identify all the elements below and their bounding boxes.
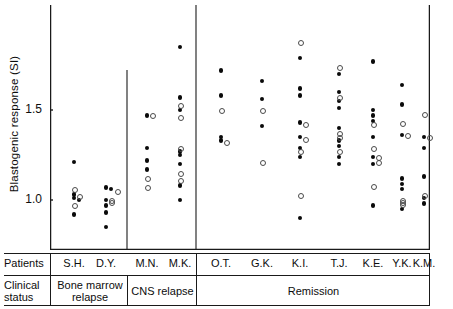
data-point-open	[422, 193, 428, 199]
data-point-open	[400, 121, 406, 127]
data-point-filled	[371, 113, 376, 118]
data-point-filled	[145, 167, 150, 172]
data-point-filled	[104, 203, 109, 208]
figure-root: Blastogenic response (SI) 1.51.0 Patient…	[0, 0, 453, 309]
data-point-filled	[422, 201, 427, 206]
data-point-open	[427, 135, 433, 141]
data-point-filled	[400, 176, 405, 181]
data-point-open	[298, 193, 304, 199]
row-label-patients: Patients	[4, 257, 48, 269]
data-point-filled	[298, 120, 303, 125]
data-point-filled	[371, 59, 376, 64]
data-point-open	[298, 40, 304, 46]
group-label-bone-marrow-relapse: Bone marrowrelapse	[52, 279, 128, 304]
data-point-filled	[104, 185, 109, 190]
data-point-filled	[422, 174, 427, 179]
data-point-open	[371, 184, 377, 190]
data-point-open	[371, 146, 377, 152]
row-label-clinical-status-line1: Clinical	[4, 279, 48, 291]
y-tick-label-1-0: 1.0	[25, 192, 42, 206]
patient-label-ot: O.T.	[199, 257, 243, 269]
patient-label-mk: M.K.	[158, 257, 202, 269]
patient-label-ki: K.I.	[278, 257, 322, 269]
label-table: Patients Clinical status S.H.D.Y.M.N.M.K…	[0, 253, 453, 309]
data-point-filled	[72, 212, 77, 217]
data-point-filled	[298, 93, 303, 98]
data-point-filled	[298, 86, 303, 91]
group-label-line2: relapse	[72, 291, 108, 303]
y-axis-title: Blastogenic response (SI)	[8, 24, 20, 224]
data-point-open	[400, 202, 406, 208]
y-tick-label-1-5: 1.5	[25, 102, 42, 116]
data-point-open	[422, 112, 428, 118]
data-point-filled	[145, 113, 150, 118]
data-point-open	[178, 103, 184, 109]
data-point-open	[115, 189, 121, 195]
row-label-clinical-status-line2: status	[4, 291, 48, 303]
data-point-open	[337, 65, 343, 71]
data-point-filled	[371, 203, 376, 208]
data-point-filled	[145, 158, 150, 163]
data-point-filled	[400, 102, 405, 107]
data-point-filled	[178, 95, 183, 100]
data-point-filled	[219, 68, 224, 73]
plot-area	[50, 5, 430, 250]
data-point-open	[178, 146, 184, 152]
data-point-filled	[219, 138, 224, 143]
patient-label-dy: D.Y.	[84, 257, 128, 269]
data-point-filled	[219, 93, 224, 98]
patient-label-km: K.M.	[402, 257, 446, 269]
data-point-filled	[104, 210, 109, 215]
group-label-cns-relapse: CNS relapse	[129, 285, 196, 297]
group-label-line1: Bone marrow	[57, 279, 122, 291]
group-label-remission: Remission	[198, 285, 429, 297]
